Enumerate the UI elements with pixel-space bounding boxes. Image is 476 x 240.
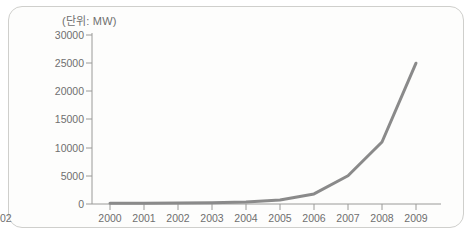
y-axis-ticks: [86, 35, 92, 204]
x-axis-ticks: [110, 204, 416, 210]
plot-area: [0, 0, 476, 240]
chart-figure: (단위: MW) 30000 25000 20000 15000 10000 5…: [0, 0, 476, 240]
data-line-series-1: [110, 63, 416, 203]
